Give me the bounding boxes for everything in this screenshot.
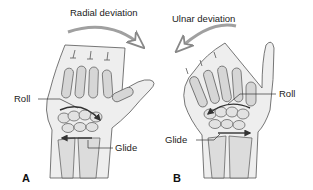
panel-letter-b: B — [173, 173, 181, 184]
panel-letter-a: A — [22, 173, 30, 184]
ulnar-deviation-label: Ulnar deviation — [172, 14, 235, 24]
radial-deviation-arrow-icon — [68, 27, 142, 46]
roll-label-b: Roll — [279, 89, 295, 99]
panel-a-hand — [38, 27, 154, 178]
roll-label-a: Roll — [14, 94, 30, 104]
wrist-deviation-figure: Radial deviation Roll Glide A Ulnar devi… — [0, 0, 313, 190]
radial-deviation-label: Radial deviation — [70, 8, 138, 18]
glide-label-b: Glide — [165, 135, 187, 145]
glide-label-a: Glide — [115, 143, 137, 153]
wrist-illustration — [0, 0, 313, 190]
panel-b-hand — [178, 25, 276, 178]
